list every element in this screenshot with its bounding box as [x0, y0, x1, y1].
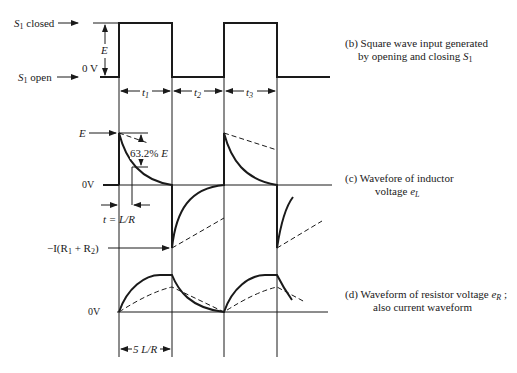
amplitude-label: E: [101, 44, 108, 56]
zero-volt-label: 0 V: [82, 62, 98, 74]
interval-t3: t3: [246, 86, 253, 98]
E-level-label: E: [79, 127, 86, 139]
caption-c-line1: (c) Wavefore of inductor: [345, 172, 454, 185]
resistor-voltage-curve: [119, 275, 292, 312]
caption-b-line2: by opening and closing S1: [358, 50, 473, 63]
square-wave: [100, 23, 330, 77]
caption-b-line1: (b) Square wave input generated: [345, 37, 488, 50]
percent-label: 63.2% E: [130, 147, 168, 159]
interval-t1: t1: [142, 86, 149, 98]
zero-volt-label-d: 0V: [88, 306, 100, 318]
five-tau-label: 5 L/R: [133, 343, 157, 355]
caption-c-line2: voltage eL: [375, 185, 419, 198]
tau-label: t = L/R: [103, 213, 135, 225]
zero-volt-label-c: 0V: [82, 179, 94, 191]
time-gridlines: [119, 77, 277, 357]
s1-closed-label: S1 closed: [14, 17, 54, 29]
interval-t2: t2: [194, 86, 201, 98]
s1-open-label: S1 open: [18, 71, 52, 83]
negative-peak-label: −I(R1 + R2): [47, 242, 99, 254]
caption-d-line2: also current waveform: [373, 301, 472, 314]
caption-d-line1: (d) Waveform of resistor voltage eR ;: [345, 288, 507, 301]
